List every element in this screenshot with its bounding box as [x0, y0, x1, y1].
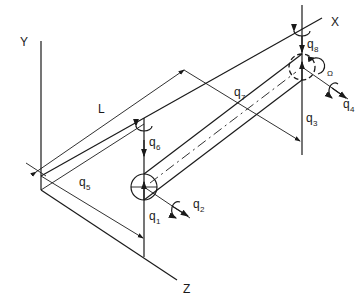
q5-label: q 5 [79, 175, 91, 192]
q6-label: q 6 [149, 135, 161, 152]
rotor-diagram: Y X Z L Ω q 1 q 2 q 3 q 4 q 5 q 6 q 7 q … [0, 0, 356, 307]
x-axis-label: X [331, 15, 339, 29]
q2-label: q 2 [193, 197, 205, 214]
svg-text:5: 5 [86, 183, 91, 192]
l-dimension-line [36, 70, 184, 172]
svg-text:6: 6 [156, 143, 161, 152]
svg-text:q: q [79, 175, 86, 189]
omega-rotation-icon [315, 58, 325, 74]
l-extension-left [26, 163, 46, 176]
q8-label: q 8 [307, 37, 319, 54]
z-axis-label: Z [183, 282, 190, 296]
svg-text:1: 1 [156, 217, 161, 226]
svg-text:3: 3 [313, 119, 318, 128]
svg-text:2: 2 [200, 205, 205, 214]
shaft-top-edge [144, 54, 302, 174]
q2-arrow [172, 206, 188, 216]
svg-text:q: q [149, 135, 156, 149]
svg-text:q: q [234, 85, 241, 99]
svg-text:4: 4 [350, 105, 355, 114]
z-axis-line [41, 190, 177, 280]
q3-label: q 3 [306, 111, 318, 128]
shaft-centerline [150, 72, 296, 183]
q7-label: q 7 [234, 85, 246, 102]
q4-label: q 4 [343, 97, 355, 114]
omega-label: Ω [327, 69, 333, 78]
svg-text:q: q [307, 37, 314, 51]
svg-text:q: q [149, 209, 156, 223]
svg-text:q: q [306, 111, 313, 125]
shaft-bottom-edge [144, 80, 302, 200]
svg-text:7: 7 [241, 93, 246, 102]
q5-dimension-line [41, 176, 143, 238]
length-label: L [98, 102, 105, 116]
y-axis-label: Y [20, 35, 28, 49]
svg-text:q: q [343, 97, 350, 111]
svg-text:q: q [193, 197, 200, 211]
base-line-upper [41, 124, 144, 190]
q4-rotation-icon [329, 83, 338, 98]
q1-label: q 1 [149, 209, 161, 226]
svg-text:8: 8 [314, 45, 319, 54]
